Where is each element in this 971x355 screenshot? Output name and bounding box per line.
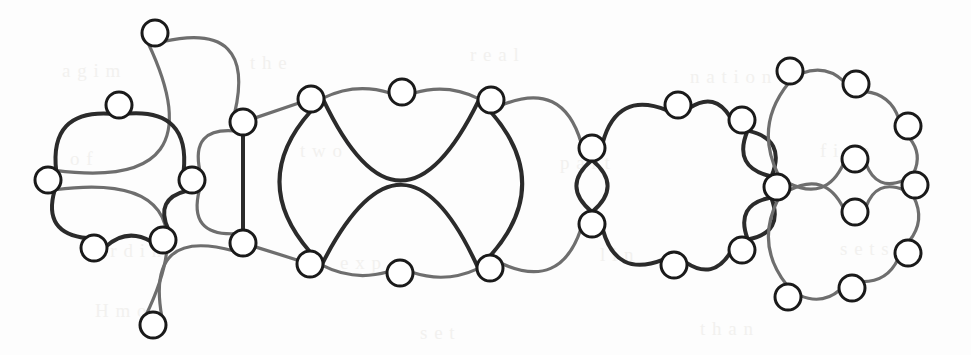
graph-node-c2[interactable] — [230, 230, 256, 256]
graph-node-a2[interactable] — [106, 92, 132, 118]
edge-a2-a4 — [127, 113, 184, 171]
edge-b4-d2 — [501, 229, 581, 272]
edge-g2-g3 — [865, 92, 898, 119]
graph-diagram — [0, 0, 971, 355]
graph-node-g2[interactable] — [843, 71, 869, 97]
edge-e4-e3 — [686, 253, 731, 270]
graph-node-a6[interactable] — [150, 227, 176, 253]
edge-g1-g2 — [802, 70, 844, 82]
graph-node-b1[interactable] — [298, 86, 324, 112]
node-layer — [35, 20, 928, 338]
graph-node-e2[interactable] — [729, 107, 755, 133]
edge-a3-a5 — [52, 190, 87, 238]
edge-g6-g7 — [800, 290, 840, 300]
edge-c1-b1 — [254, 103, 299, 118]
edge-b6-b5 — [322, 265, 388, 275]
graph-node-b3[interactable] — [478, 87, 504, 113]
edge-h1-g4 — [866, 164, 904, 184]
edge-f0-g1 — [768, 83, 788, 175]
edge-b5-b4 — [412, 269, 478, 278]
graph-node-h2[interactable] — [842, 199, 868, 225]
graph-node-e3[interactable] — [729, 237, 755, 263]
graph-node-d1[interactable] — [579, 135, 605, 161]
edge-a4-c2 — [197, 189, 235, 233]
graph-node-a7[interactable] — [140, 312, 166, 338]
edge-d1-e1 — [603, 105, 668, 143]
edge-b3-b4 — [490, 112, 522, 256]
graph-node-d2[interactable] — [579, 211, 605, 237]
edge-b1-b6 — [279, 111, 310, 252]
graph-node-g5[interactable] — [895, 240, 921, 266]
graph-node-a5[interactable] — [81, 235, 107, 261]
edge-h2-g4 — [866, 187, 904, 207]
graph-node-a3[interactable] — [35, 167, 61, 193]
edge-a4-c1 — [198, 131, 235, 171]
graph-node-b2[interactable] — [389, 79, 415, 105]
graph-node-c1[interactable] — [230, 109, 256, 135]
edge-a1-c1 — [163, 38, 238, 114]
graph-node-g1[interactable] — [777, 58, 803, 84]
edge-c2-b6 — [254, 247, 298, 261]
graph-node-a1[interactable] — [142, 20, 168, 46]
edge-d1-d2 — [592, 160, 608, 212]
edge-a2-a3 — [55, 113, 110, 171]
edge-g4-g5 — [909, 197, 919, 241]
graph-node-e1[interactable] — [665, 92, 691, 118]
edge-b1-b3 — [323, 99, 479, 181]
graph-node-b6[interactable] — [297, 251, 323, 277]
edge-a5-a6 — [106, 236, 151, 247]
edge-a7-c2 — [159, 246, 234, 317]
graph-node-b5[interactable] — [387, 260, 413, 286]
figure-root: a g i mt h er e a ln a t i o no ft w op … — [0, 0, 971, 355]
edge-b3-d1 — [502, 98, 581, 143]
graph-node-g4[interactable] — [902, 172, 928, 198]
edge-g3-g4 — [909, 138, 917, 173]
graph-node-h1[interactable] — [842, 146, 868, 172]
edge-b1-b2 — [323, 89, 390, 99]
edge-b2-b3 — [414, 89, 479, 99]
graph-node-a4[interactable] — [179, 167, 205, 193]
edge-g5-g6 — [862, 259, 898, 281]
graph-node-g7[interactable] — [775, 284, 801, 310]
edge-b6-b4 — [322, 185, 478, 268]
graph-node-g6[interactable] — [839, 275, 865, 301]
graph-node-g3[interactable] — [895, 113, 921, 139]
edge-g7-f0 — [768, 199, 786, 285]
graph-node-f0[interactable] — [764, 174, 790, 200]
edge-a3-a7 — [55, 187, 167, 315]
edge-a6-a4 — [164, 191, 187, 229]
graph-node-e4[interactable] — [661, 252, 687, 278]
edge-e1-e2 — [690, 101, 731, 117]
edge-d1-d2 — [576, 160, 592, 212]
edge-d2-e4 — [603, 229, 664, 264]
graph-node-b4[interactable] — [477, 255, 503, 281]
